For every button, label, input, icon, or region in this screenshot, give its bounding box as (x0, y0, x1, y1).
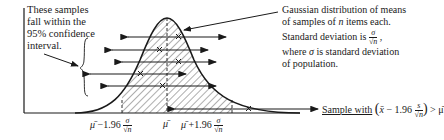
right-note-line3: Standard deviation is σ√n , (282, 28, 406, 46)
left-note-line: These samples (27, 4, 95, 16)
right-note-line1: Gaussian distribution of means (282, 4, 406, 16)
mean-label: μ̄ (163, 118, 168, 130)
right-note-line5: of population. (282, 58, 406, 70)
ci-upper-label: μ̄ +1.96 σ√n (181, 116, 223, 134)
left-note-line: interval. (27, 40, 95, 52)
ci-lower-label: μ̄ −1.96 σ√n (90, 116, 132, 134)
left-note-pointer (44, 54, 78, 66)
confidence-region (75, 18, 300, 113)
right-note-line4: where σ is standard deviation (282, 46, 406, 58)
right-note: Gaussian distribution of means of sample… (282, 4, 406, 70)
left-note: These samples fall within the 95% confid… (27, 4, 95, 52)
sample-label: Sample with (x̄ − 1.96 s√n) > μ̄ (322, 100, 444, 119)
left-note-line: fall within the (27, 16, 95, 28)
right-note-pointer (184, 12, 278, 30)
right-note-line2: of samples of n items each. (282, 16, 406, 28)
left-note-line: 95% confidence (27, 28, 95, 40)
